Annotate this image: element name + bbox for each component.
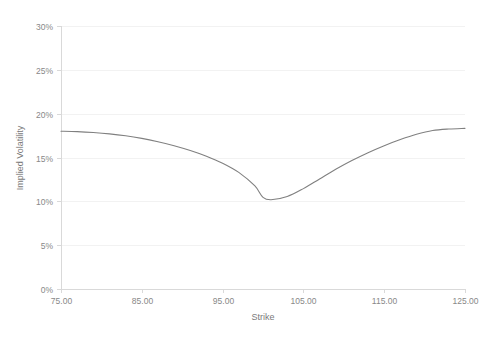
x-axis-tick-label: 75.00 [51, 296, 73, 306]
x-axis-title: Strike [251, 312, 274, 322]
chart-container: 0%5%10%15%20%25%30% 75.0085.0095.00105.0… [0, 0, 498, 340]
x-axis-tick-label: 95.00 [213, 296, 235, 306]
x-axis-tick-label: 85.00 [132, 296, 154, 306]
y-axis-tick-label: 25% [36, 66, 53, 76]
x-axis-tick-label: 105.00 [291, 296, 317, 306]
y-axis-tick-label: 5% [41, 241, 54, 251]
y-axis-tick-label: 20% [36, 110, 53, 120]
y-axis-title: Implied Volatility [15, 125, 25, 190]
x-axis-tick-label: 125.00 [453, 296, 479, 306]
y-axis-tick-label: 10% [36, 197, 53, 207]
y-axis-tick-label: 15% [36, 154, 53, 164]
y-axis-tick-label: 0% [41, 285, 54, 295]
y-axis-tick-label: 30% [36, 22, 53, 32]
x-axis-tick-label: 115.00 [372, 296, 398, 306]
implied-volatility-chart: 0%5%10%15%20%25%30% 75.0085.0095.00105.0… [0, 0, 498, 340]
